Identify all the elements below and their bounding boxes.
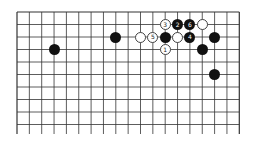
move-number: 4 — [188, 34, 192, 40]
black-stone[interactable] — [209, 32, 220, 43]
move-number: 5 — [151, 34, 155, 40]
black-stone[interactable] — [160, 32, 171, 43]
white-stone[interactable] — [135, 32, 146, 43]
white-stone[interactable]: 3 — [160, 19, 171, 30]
black-stone[interactable] — [197, 44, 208, 55]
move-number: 3 — [163, 22, 167, 28]
go-board[interactable]: 532641 — [0, 0, 253, 143]
move-number: 6 — [188, 22, 192, 28]
black-stone[interactable] — [110, 32, 121, 43]
black-stone[interactable]: 2 — [172, 19, 183, 30]
white-stone[interactable]: 5 — [147, 32, 158, 43]
black-stone[interactable] — [49, 44, 60, 55]
black-stone[interactable]: 4 — [184, 32, 195, 43]
move-number: 2 — [176, 22, 180, 28]
white-stone[interactable] — [172, 32, 183, 43]
move-number: 1 — [163, 47, 167, 53]
white-stone[interactable]: 1 — [160, 44, 171, 55]
white-stone[interactable] — [197, 19, 208, 30]
